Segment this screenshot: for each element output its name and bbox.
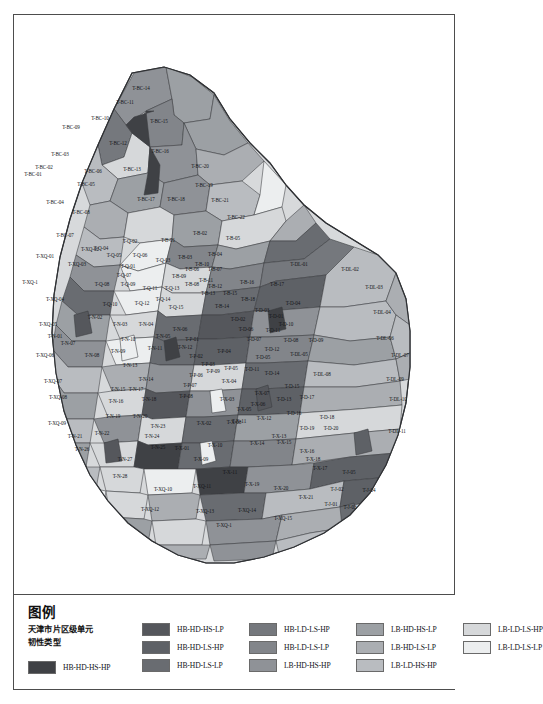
map-unit-label: T-D-09 bbox=[309, 338, 324, 343]
map-unit-label: T-N-01 bbox=[48, 334, 63, 339]
map-unit-label: T-BC-10 bbox=[91, 116, 109, 121]
map-unit-label: T-N-26 bbox=[75, 447, 90, 452]
legend-swatch bbox=[249, 641, 277, 654]
legend-item[interactable]: HB-HD-LS-HP bbox=[142, 641, 224, 653]
map-unit-label: T-X-06 bbox=[251, 402, 266, 407]
map-unit-label: T-B-18 bbox=[241, 297, 255, 302]
map-unit-label: T-J-01 bbox=[325, 502, 338, 507]
map-unit-label: T-X-10 bbox=[208, 443, 223, 448]
map-unit-label: T-P-08 bbox=[179, 394, 193, 399]
map-unit-label: T-BC-21 bbox=[211, 198, 229, 203]
map-unit-label: T-XQ-05 bbox=[39, 322, 57, 327]
map-unit-label: T-P-09 bbox=[206, 369, 220, 374]
legend-label: LB-LD-LS-HP bbox=[498, 625, 543, 634]
map-unit-label: T-BC-17 bbox=[137, 197, 155, 202]
legend-item[interactable]: HB-HD-HS-HP bbox=[28, 661, 110, 673]
map-unit-label: T-DL-07 bbox=[391, 353, 409, 358]
legend-subtitle: 天津市片区级单元 韧性类型 bbox=[28, 623, 128, 648]
legend-column-3: HB-LD-LS-HPHB-LD-LS-LPLB-HD-HS-HP bbox=[249, 623, 331, 678]
legend-item[interactable]: HB-LD-LS-HP bbox=[249, 623, 331, 635]
map-unit-label: T-BC-12 bbox=[109, 141, 127, 146]
map-unit-label: T-BC-19 bbox=[195, 183, 213, 188]
map-unit-label: T-D-07 bbox=[247, 337, 262, 342]
map-unit-label: T-N-20 bbox=[133, 414, 148, 419]
map-unit-label: T-B-07 bbox=[208, 267, 222, 272]
legend-title: 图例 bbox=[28, 601, 56, 621]
map-unit-label: T-N-25 bbox=[151, 445, 166, 450]
legend-item[interactable]: LB-LD-LS-LP bbox=[463, 641, 543, 653]
map-unit-label: T-XQ-09 bbox=[48, 421, 66, 426]
map-polygons[interactable] bbox=[14, 15, 454, 593]
map-unit-label: T-J-03 bbox=[344, 505, 357, 510]
map-unit-label: T-XQ-11 bbox=[193, 484, 211, 489]
map-unit-label: T-B-02 bbox=[193, 231, 207, 236]
map-unit-label: T-BC-03 bbox=[51, 152, 69, 157]
legend-label: HB-LD-LS-HP bbox=[284, 625, 330, 634]
map-unit-label: T-X-11 bbox=[223, 470, 237, 475]
legend-swatch bbox=[249, 659, 277, 672]
map-unit-label: T-X-01 bbox=[175, 446, 190, 451]
legend-item[interactable]: HB-HD-LS-LP bbox=[142, 660, 224, 672]
legend-item[interactable]: LB-HD-HS-HP bbox=[249, 660, 331, 672]
map-unit-label: T-J-02 bbox=[331, 487, 344, 492]
map-unit-label: T-B-03 bbox=[178, 255, 192, 260]
map-unit-label: T-Q-02 bbox=[123, 239, 138, 244]
map-unit-label: T-DL-10 bbox=[389, 397, 407, 402]
map-unit-label: T-N-13 bbox=[123, 363, 138, 368]
map-unit-label: T-B-06 bbox=[185, 267, 199, 272]
legend-item[interactable]: LB-LD-LS-HP bbox=[463, 623, 543, 635]
map-unit-label: T-Q-04 bbox=[94, 246, 109, 251]
map-unit-label: T-N-14 bbox=[139, 377, 154, 382]
legend-label: HB-HD-HS-LP bbox=[177, 625, 224, 634]
map-unit-label: T-D-15 bbox=[285, 384, 300, 389]
map-unit-label: T-J-04 bbox=[363, 488, 376, 493]
legend-label: LB-HD-LS-LP bbox=[391, 643, 436, 652]
map-unit-label: T-B-10 bbox=[195, 262, 209, 267]
map-unit-label: T-XQ-1 bbox=[22, 280, 38, 285]
legend-panel: 图例 天津市片区级单元 韧性类型 HB-HD-HS-HP HB-HD-HS-LP… bbox=[14, 594, 455, 689]
map-unit-label: T-N-15 bbox=[111, 387, 126, 392]
map-unit-label: T-Q-10 bbox=[103, 302, 118, 307]
map-unit-label: T-XQ-12 bbox=[141, 507, 159, 512]
map-unit-label: T-D-08 bbox=[284, 338, 299, 343]
legend-item[interactable]: HB-HD-HS-LP bbox=[142, 623, 224, 635]
legend-swatch bbox=[463, 623, 491, 636]
map-unit-label: T-N-04 bbox=[139, 322, 154, 327]
legend-column-4: LB-HD-HS-LPLB-HD-LS-LPLB-LD-HS-HP bbox=[356, 623, 437, 678]
legend-item[interactable]: LB-HD-LS-LP bbox=[356, 641, 437, 653]
map-panel[interactable]: T-BC-14T-BC-11T-BC-10T-BC-15T-BC-09T-BC-… bbox=[14, 15, 454, 593]
map-unit-label: T-Q-12 bbox=[135, 301, 150, 306]
map-unit-label: T-P-07 bbox=[183, 383, 197, 388]
legend-swatch bbox=[356, 623, 384, 636]
legend-swatch bbox=[463, 641, 491, 654]
map-unit-label: T-N-19 bbox=[106, 414, 121, 419]
legend-item[interactable]: HB-LD-LS-LP bbox=[249, 641, 331, 653]
map-unit-label: T-X-12 bbox=[257, 416, 272, 421]
legend-label: LB-LD-HS-HP bbox=[391, 661, 437, 670]
map-unit-label: T-D-03 bbox=[255, 308, 270, 313]
legend-item[interactable]: LB-LD-HS-HP bbox=[356, 660, 437, 672]
map-unit-label: T-B-09 bbox=[172, 274, 186, 279]
map-unit-label: T-Q-08 bbox=[95, 282, 110, 287]
legend-item[interactable]: LB-HD-HS-LP bbox=[356, 623, 437, 635]
map-unit-label: T-B-01 bbox=[161, 238, 175, 243]
map-unit-label: T-X-17 bbox=[313, 466, 328, 471]
map-unit-label: T-BC-04 bbox=[46, 200, 64, 205]
map-unit-label: T-D-12 bbox=[265, 347, 280, 352]
map-unit-label: T-B-14 bbox=[215, 304, 229, 309]
map-unit-label: T-X-11 bbox=[232, 419, 246, 424]
map-unit-label: T-XQ-08 bbox=[49, 395, 67, 400]
map-unit-label: T-X-18 bbox=[306, 457, 321, 462]
map-unit-label: T-BC-06 bbox=[84, 169, 102, 174]
map-unit-label: T-D-20 bbox=[324, 426, 339, 431]
map-unit-label: T-D-13 bbox=[277, 397, 292, 402]
map-unit-label: T-X-05 bbox=[237, 407, 252, 412]
map-unit-label: T-XQ-06 bbox=[36, 353, 54, 358]
map-unit-label: T-N-11 bbox=[148, 346, 162, 351]
legend-swatch bbox=[356, 641, 384, 654]
map-unit-label: T-P-03 bbox=[201, 362, 215, 367]
map-unit-label: T-P-04 bbox=[217, 349, 231, 354]
map-unit-label: T-N-12 bbox=[178, 345, 193, 350]
map-unit-label: T-D-04 bbox=[286, 301, 301, 306]
map-unit-label: T-N-10 bbox=[121, 337, 136, 342]
